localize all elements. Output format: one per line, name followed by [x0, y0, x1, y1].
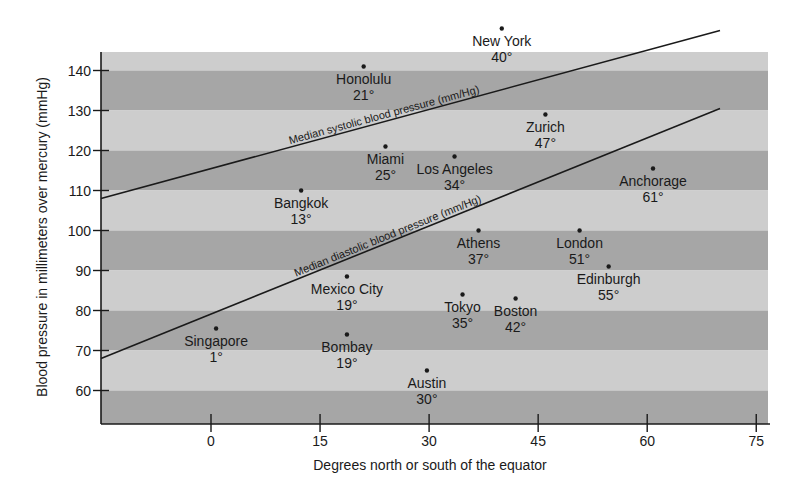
point-dot	[361, 64, 365, 68]
city-latitude: 34°	[444, 177, 465, 193]
point-dot	[214, 326, 218, 330]
band-dark	[101, 231, 768, 271]
x-tick-label: 0	[207, 433, 215, 449]
x-tick-label: 45	[530, 433, 546, 449]
city-name: London	[556, 235, 603, 251]
point-dot	[606, 264, 610, 268]
band-light	[101, 52, 768, 71]
city-latitude: 35°	[452, 315, 473, 331]
x-tick-label: 60	[639, 433, 655, 449]
city-latitude: 19°	[336, 355, 357, 371]
city-name: Bangkok	[274, 195, 329, 211]
city-name: Tokyo	[444, 299, 481, 315]
point-dot	[577, 228, 581, 232]
y-tick-label: 100	[68, 223, 92, 239]
point-dot	[425, 368, 429, 372]
y-tick-label: 60	[75, 383, 91, 399]
city-name: Anchorage	[619, 173, 687, 189]
y-tick-label: 130	[68, 103, 92, 119]
blood-pressure-chart: Median systolic blood pressure (mm/Hg)Me…	[0, 0, 801, 503]
city-name: Bombay	[321, 339, 372, 355]
y-tick-label: 80	[75, 303, 91, 319]
y-axis-title: Blood pressure in millimeters over mercu…	[34, 77, 50, 397]
x-tick-label: 15	[312, 433, 328, 449]
city-name: New York	[472, 33, 532, 49]
point-dot	[345, 332, 349, 336]
city-latitude: 47°	[535, 135, 556, 151]
city-name: Mexico City	[311, 281, 383, 297]
point-dot	[543, 112, 547, 116]
x-axis-title: Degrees north or south of the equator	[313, 457, 547, 473]
point-dot	[651, 166, 655, 170]
city-name: Athens	[457, 235, 501, 251]
city-latitude: 30°	[416, 391, 437, 407]
x-tick-label: 75	[748, 433, 764, 449]
x-tick-label: 30	[421, 433, 437, 449]
point-dot	[345, 274, 349, 278]
city-latitude: 21°	[353, 87, 374, 103]
city-name: Edinburgh	[577, 271, 641, 287]
y-tick-label: 120	[68, 143, 92, 159]
y-tick-label: 110	[69, 183, 92, 199]
point-dot	[383, 144, 387, 148]
city-name: Honolulu	[336, 71, 391, 87]
point-dot	[460, 292, 464, 296]
point-dot	[299, 188, 303, 192]
city-latitude: 61°	[642, 189, 663, 205]
point-dot	[500, 26, 504, 30]
y-tick-label: 90	[75, 263, 91, 279]
city-name: Boston	[494, 303, 538, 319]
city-latitude: 1°	[209, 349, 222, 365]
city-name: Zurich	[526, 119, 565, 135]
city-latitude: 51°	[569, 251, 590, 267]
city-latitude: 42°	[505, 319, 526, 335]
band-light	[101, 271, 768, 311]
city-latitude: 25°	[375, 167, 396, 183]
city-latitude: 55°	[598, 287, 619, 303]
y-tick-label: 140	[68, 63, 92, 79]
city-latitude: 37°	[468, 251, 489, 267]
city-name: Los Angeles	[416, 161, 492, 177]
city-latitude: 13°	[291, 211, 312, 227]
city-name: Austin	[407, 375, 446, 391]
city-name: Miami	[367, 151, 404, 167]
y-tick-label: 70	[75, 343, 91, 359]
point-dot	[513, 296, 517, 300]
point-dot	[476, 228, 480, 232]
band-light	[101, 111, 768, 151]
point-dot	[452, 154, 456, 158]
city-latitude: 19°	[336, 297, 357, 313]
city-name: Singapore	[184, 333, 248, 349]
city-latitude: 40°	[491, 49, 512, 65]
